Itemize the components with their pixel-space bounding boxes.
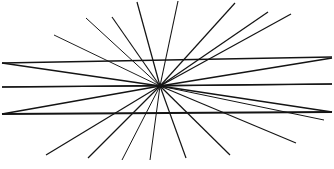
illusion-figure-canvas — [0, 0, 334, 169]
illusion-figure-container — [0, 0, 334, 169]
